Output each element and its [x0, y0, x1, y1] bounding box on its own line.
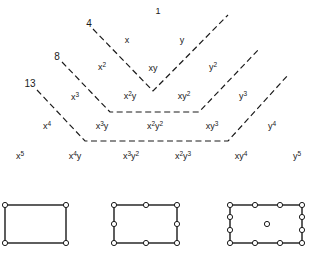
node-circle-icon [299, 227, 304, 232]
node-circle-icon [174, 202, 179, 207]
monomial-term: xy3 [206, 121, 219, 131]
monomial-term: xy2 [178, 91, 191, 101]
term-exponent: 4 [47, 120, 51, 127]
node-circle-icon [2, 202, 7, 207]
term-exponent: 2 [160, 120, 164, 127]
term-exponent: 3 [188, 150, 192, 157]
boundary-dashed-line [37, 75, 288, 141]
term-variable: xy [235, 151, 244, 161]
term-variable: y [180, 35, 185, 45]
boundary-label: 8 [54, 52, 60, 62]
node-circle-icon [264, 221, 269, 226]
monomial-term: y4 [268, 121, 276, 131]
term-exponent: 2 [136, 150, 140, 157]
monomial-term: x3y [96, 121, 109, 131]
node-circle-icon [227, 240, 232, 245]
node-circle-icon [277, 240, 282, 245]
monomial-term: x4y [69, 151, 82, 161]
term-exponent: 5 [297, 150, 301, 157]
node-circle-icon [143, 202, 148, 207]
term-exponent: 3 [75, 91, 79, 98]
monomial-term: x2y3 [175, 151, 191, 161]
monomial-term: x5 [16, 151, 24, 161]
monomial-term: x2y2 [147, 121, 163, 131]
element-outline [114, 205, 177, 243]
monomial-term: x2y [124, 91, 137, 101]
node-circle-icon [252, 240, 257, 245]
node-circle-icon [227, 202, 232, 207]
boundary-label: 4 [86, 19, 92, 29]
term-variable: xy [206, 121, 215, 131]
term-exponent: 4 [272, 120, 276, 127]
node-circle-icon [299, 240, 304, 245]
term-exponent: 2 [187, 90, 191, 97]
boundary-label: 13 [24, 79, 35, 89]
term-variable: y [104, 121, 109, 131]
node-circle-icon [143, 240, 148, 245]
node-circle-icon [299, 214, 304, 219]
node-circle-icon [227, 227, 232, 232]
node-circle-icon [111, 240, 116, 245]
node-circle-icon [252, 202, 257, 207]
monomial-term: xy [149, 63, 158, 73]
term-exponent: 2 [102, 61, 106, 68]
node-circle-icon [2, 240, 7, 245]
term-exponent: 3 [215, 120, 219, 127]
term-base: 1 [155, 6, 160, 16]
term-exponent: 4 [244, 150, 248, 157]
term-variable: x [125, 35, 130, 45]
node-circle-icon [174, 221, 179, 226]
monomial-term: xy4 [235, 151, 248, 161]
boundary-dashed-line [93, 15, 228, 91]
term-exponent: 5 [20, 150, 24, 157]
element-4-node [2, 202, 68, 245]
node-circle-icon [174, 240, 179, 245]
term-variable: y [77, 151, 82, 161]
monomial-term: y3 [239, 91, 247, 101]
monomial-term: 1 [155, 6, 160, 16]
term-variable: xy [149, 63, 158, 73]
term-exponent: 2 [213, 61, 217, 68]
monomial-term: x4 [43, 121, 51, 131]
element-13-node [227, 202, 304, 245]
monomial-term: x3y2 [123, 151, 139, 161]
diagram-canvas: 1xyx2xyy2x3x2yxy2y3x4x3yx2y2xy3y4x5x4yx3… [0, 0, 316, 256]
node-circle-icon [63, 202, 68, 207]
monomial-term: y5 [293, 151, 301, 161]
term-variable: y [132, 91, 137, 101]
node-circle-icon [299, 202, 304, 207]
element-8-node [111, 202, 179, 245]
element-outline [5, 205, 66, 243]
term-variable: xy [178, 91, 187, 101]
node-circle-icon [111, 221, 116, 226]
boundary-dashed-line [62, 48, 260, 112]
monomial-term: x [125, 35, 130, 45]
monomial-term: y2 [209, 62, 217, 72]
node-circle-icon [63, 240, 68, 245]
node-circle-icon [111, 202, 116, 207]
node-circle-icon [277, 202, 282, 207]
node-circle-icon [227, 214, 232, 219]
monomial-term: x2 [98, 62, 106, 72]
monomial-term: x3 [71, 92, 79, 102]
term-exponent: 3 [243, 90, 247, 97]
monomial-term: y [180, 35, 185, 45]
